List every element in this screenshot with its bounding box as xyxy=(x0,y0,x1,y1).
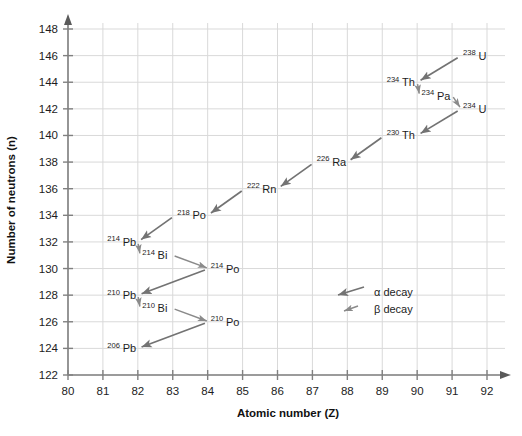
y-tick-label: 126 xyxy=(39,316,58,328)
alpha-decay-arrow xyxy=(351,138,382,160)
y-tick-label: 130 xyxy=(39,263,58,275)
nuclide-mass-number: 222 xyxy=(247,181,260,190)
nuclide-mass-number: 230 xyxy=(387,128,400,137)
nuclide-label: 234U xyxy=(463,101,486,115)
nuclide-symbol: U xyxy=(478,50,486,62)
nuclide-symbol: Pb xyxy=(123,342,136,354)
nuclide-symbol: Th xyxy=(402,129,415,141)
legend-label-alpha: α decay xyxy=(374,286,413,298)
x-tick-label: 89 xyxy=(376,385,389,397)
nuclide-symbol: U xyxy=(478,103,486,115)
nuclide-mass-number: 214 xyxy=(211,261,224,270)
nuclide-symbol: Po xyxy=(226,263,239,275)
x-tick-label: 85 xyxy=(236,385,249,397)
y-tick-label: 142 xyxy=(39,103,58,115)
x-tick-label: 87 xyxy=(306,385,319,397)
y-tick-label: 134 xyxy=(39,209,59,221)
decay-chain-chart: 1221241261281301321341361381401421441461… xyxy=(0,0,522,436)
nuclide-mass-number: 210 xyxy=(211,314,224,323)
y-tick-label: 144 xyxy=(39,76,59,88)
nuclide-label: 238U xyxy=(463,48,486,62)
nuclide-label: 210Po xyxy=(211,314,240,328)
x-tick-label: 84 xyxy=(201,385,214,397)
plot-area: 1221241261281301321341361381401421441461… xyxy=(0,0,522,436)
nuclide-mass-number: 226 xyxy=(317,154,330,163)
axes xyxy=(64,14,511,379)
nuclide-symbol: Pa xyxy=(437,90,451,102)
x-tick-label: 91 xyxy=(446,385,459,397)
beta-decay-arrow xyxy=(175,309,207,321)
nuclide-label: 230Th xyxy=(387,128,415,142)
nuclide-symbol: Bi xyxy=(158,302,168,314)
nuclide-labels: 238U234Th234Pa234U230Th226Ra222Rn218Po21… xyxy=(107,48,486,354)
x-tick-label: 83 xyxy=(166,385,179,397)
x-tick-label: 88 xyxy=(341,385,354,397)
y-tick-label: 128 xyxy=(39,289,58,301)
nuclide-symbol: Ra xyxy=(332,156,347,168)
x-tick-label: 81 xyxy=(97,385,110,397)
beta-decay-arrow xyxy=(418,84,420,93)
y-tick-label: 124 xyxy=(39,342,59,354)
nuclide-label: 214Po xyxy=(211,261,240,275)
nuclide-mass-number: 206 xyxy=(107,341,120,350)
nuclide-label: 206Pb xyxy=(107,341,136,355)
x-axis-title: Atomic number (Z) xyxy=(237,407,339,419)
y-tick-label: 140 xyxy=(39,129,58,141)
nuclide-symbol: Po xyxy=(226,316,239,328)
nuclide-label: 210Pb xyxy=(107,288,136,302)
y-tick-label: 148 xyxy=(39,23,58,35)
x-tick-label: 82 xyxy=(131,385,144,397)
alpha-decay-arrow xyxy=(281,164,312,186)
nuclide-mass-number: 234 xyxy=(463,101,476,110)
y-tick-label: 122 xyxy=(39,369,58,381)
beta-decay-arrow xyxy=(138,244,140,253)
nuclide-label: 218Po xyxy=(177,208,206,222)
legend-beta-arrow xyxy=(344,306,358,311)
nuclide-symbol: Po xyxy=(192,209,205,221)
legend-alpha-arrow xyxy=(338,287,364,295)
beta-decay-arrow xyxy=(453,97,460,107)
y-axis-arrowhead xyxy=(64,14,72,25)
beta-decay-arrow xyxy=(175,256,207,268)
y-tick-label: 132 xyxy=(39,236,58,248)
y-tick-label: 138 xyxy=(39,156,58,168)
x-tick-label: 92 xyxy=(481,385,494,397)
nuclide-label: 222Rn xyxy=(247,181,276,195)
nuclide-symbol: Pb xyxy=(123,236,136,248)
nuclide-mass-number: 214 xyxy=(107,234,120,243)
alpha-decay-arrow xyxy=(141,218,172,240)
nuclide-label: 226Ra xyxy=(317,154,347,168)
nuclide-mass-number: 210 xyxy=(142,301,155,310)
nuclide-label: 210Bi xyxy=(142,301,167,315)
nuclide-mass-number: 234 xyxy=(387,75,400,84)
nuclide-mass-number: 238 xyxy=(463,48,476,57)
x-tick-label: 80 xyxy=(62,385,75,397)
beta-decay-arrow xyxy=(138,297,140,306)
gridlines xyxy=(68,23,505,375)
x-tick-label: 86 xyxy=(271,385,284,397)
nuclide-label: 234Th xyxy=(387,75,415,89)
nuclide-mass-number: 234 xyxy=(422,88,435,97)
nuclide-mass-number: 214 xyxy=(142,248,155,257)
nuclide-symbol: Bi xyxy=(158,249,168,261)
chart-legend: α decayβ decay xyxy=(338,286,413,315)
x-tick-label: 90 xyxy=(411,385,424,397)
nuclide-mass-number: 210 xyxy=(107,288,120,297)
alpha-decay-arrow xyxy=(211,191,242,213)
y-tick-label: 146 xyxy=(39,50,58,62)
nuclide-label: 214Pb xyxy=(107,234,136,248)
nuclide-symbol: Pb xyxy=(123,289,136,301)
nuclide-symbol: Th xyxy=(402,76,415,88)
nuclide-symbol: Rn xyxy=(262,183,276,195)
y-tick-label: 136 xyxy=(39,183,58,195)
nuclide-mass-number: 218 xyxy=(177,208,190,217)
x-axis-arrowhead xyxy=(500,371,511,379)
nuclide-label: 234Pa xyxy=(422,88,452,102)
y-axis-title: Number of neutrons (n) xyxy=(5,136,17,264)
legend-label-beta: β decay xyxy=(374,303,413,315)
nuclide-label: 214Bi xyxy=(142,248,167,262)
